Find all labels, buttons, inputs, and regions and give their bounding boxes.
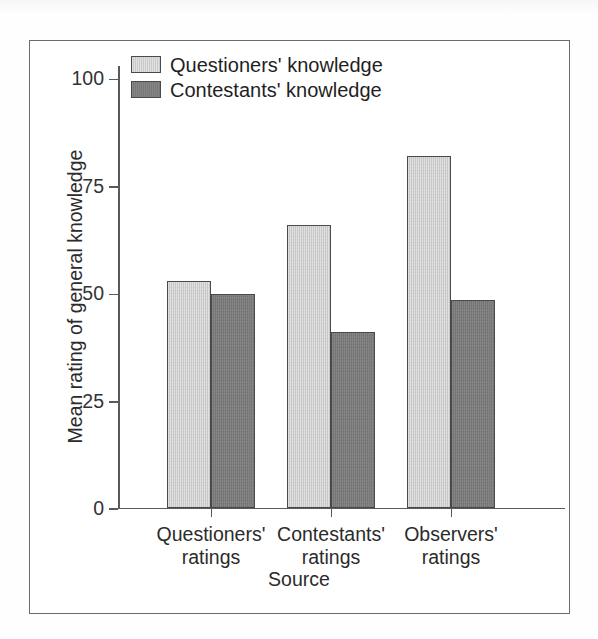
- y-tick-mark-0: [109, 508, 118, 510]
- bar-questioners-knowledge-group-observers-ratings[interactable]: [407, 156, 451, 508]
- x-category-label-observers-ratings-line2: ratings: [371, 546, 531, 569]
- y-tick-mark-75: [109, 186, 118, 188]
- legend-item-questioners-knowledge[interactable]: Questioners' knowledge: [131, 52, 383, 77]
- legend-swatch-light-icon: [131, 56, 161, 73]
- x-tick-mark-contestants-ratings: [331, 508, 333, 517]
- y-tick-mark-25: [109, 401, 118, 403]
- legend-label-questioners-knowledge: Questioners' knowledge: [170, 55, 383, 75]
- x-category-label-observers-ratings: Observers' ratings: [371, 523, 531, 569]
- bar-chart-plot-area: 100 75 50 25 0 Questi: [0, 0, 598, 639]
- bar-contestants-knowledge-group-questioners-ratings[interactable]: [211, 294, 255, 509]
- figure-container: 100 75 50 25 0 Questi: [0, 0, 598, 639]
- legend-label-contestants-knowledge: Contestants' knowledge: [170, 80, 382, 100]
- y-tick-mark-100: [109, 79, 118, 81]
- x-category-label-observers-ratings-line1: Observers': [371, 523, 531, 546]
- y-tick-mark-50: [109, 294, 118, 296]
- y-axis-title: Mean rating of general knowledge: [64, 87, 87, 507]
- y-axis-line: [118, 66, 120, 509]
- legend-swatch-dark-icon: [131, 81, 161, 98]
- bar-contestants-knowledge-group-observers-ratings[interactable]: [451, 300, 495, 508]
- x-tick-mark-questioners-ratings: [211, 508, 213, 517]
- chart-legend: Questioners' knowledge Contestants' know…: [131, 52, 383, 102]
- legend-item-contestants-knowledge[interactable]: Contestants' knowledge: [131, 77, 383, 102]
- bar-questioners-knowledge-group-questioners-ratings[interactable]: [167, 281, 211, 508]
- bar-contestants-knowledge-group-contestants-ratings[interactable]: [331, 332, 375, 508]
- bar-questioners-knowledge-group-contestants-ratings[interactable]: [287, 225, 331, 508]
- x-axis-title: Source: [0, 568, 598, 591]
- x-tick-mark-observers-ratings: [451, 508, 453, 517]
